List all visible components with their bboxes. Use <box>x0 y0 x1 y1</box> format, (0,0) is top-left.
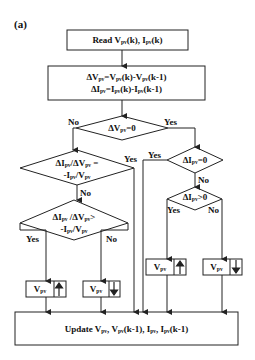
edge-label-eq-yes: Yes <box>124 154 137 164</box>
delta-node-line1: ΔVpv=Vpv(k)-Vpv(k-1) <box>48 72 205 84</box>
decision-dv-zero-text: ΔVpv=0 <box>92 123 152 135</box>
edge-label-di-zero-no: No <box>198 175 209 185</box>
decision-di-zero-text: ΔIpv=0 <box>170 155 220 167</box>
edge-label-dv-zero-no: No <box>68 117 79 127</box>
decision-di-pos-text: ΔIpv>0 <box>170 192 220 204</box>
edge-label-di-pos-no: No <box>208 205 219 215</box>
decision-incond-eq-line1: ΔIpv/ΔVpv = <box>37 158 117 170</box>
decision-incond-eq-line2: -Ipv/Vpv <box>37 170 117 182</box>
update-node-text: Update Vpv, Vpv(k-1), Ipv, Ipv(k-1) <box>15 324 238 336</box>
v-inc-left-label: Vpv <box>26 284 54 296</box>
edge-label-gt-no: No <box>106 234 117 244</box>
read-node-text: Read Vpv(k), Ipv(k) <box>67 35 188 47</box>
decision-incond-gt-line2: -Ipv/Vpv <box>34 224 114 236</box>
v-inc-right-label: Vpv <box>146 262 174 274</box>
v-dec-left-label: Vpv <box>83 284 109 296</box>
edge-label-di-zero-yes: Yes <box>148 150 161 160</box>
edge-label-gt-yes: Yes <box>26 234 39 244</box>
edge-label-eq-no: No <box>80 188 91 198</box>
edge-label-di-pos-yes: Yes <box>167 205 180 215</box>
decision-incond-gt-line1: ΔIpv /ΔVpv> <box>34 212 114 224</box>
v-dec-right-label: Vpv <box>203 262 230 274</box>
delta-node-line2: ΔIpv=Ipv(k)-Ipv(k-1) <box>48 84 205 96</box>
edge-label-dv-zero-yes: Yes <box>164 117 177 127</box>
